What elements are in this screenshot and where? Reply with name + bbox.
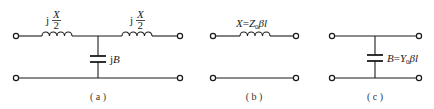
- terminal: [210, 75, 215, 80]
- terminal: [416, 75, 421, 80]
- terminal: [210, 33, 215, 38]
- caption-b: ( b ): [246, 91, 263, 103]
- label-b-equals: B=Y0βl: [387, 52, 418, 66]
- caption-a: ( a ): [90, 91, 106, 103]
- label-jb: jB: [109, 53, 120, 65]
- terminal: [177, 33, 182, 38]
- svg-text:2: 2: [54, 19, 60, 31]
- terminal: [329, 75, 334, 80]
- label-jx-half-right: j X 2: [129, 8, 145, 31]
- caption-c: ( c ): [367, 91, 383, 103]
- terminal: [13, 75, 18, 80]
- svg-text:2: 2: [138, 19, 144, 31]
- terminal: [416, 33, 421, 38]
- panel-b-series-inductor: X=Z0βl ( b ): [210, 17, 298, 103]
- svg-text:j: j: [129, 14, 133, 26]
- circuit-figure: j X 2 j X 2 jB ( a ) X=Z0βl ( b ): [0, 0, 434, 109]
- panel-c-shunt-capacitor: B=Y0βl ( c ): [329, 33, 421, 103]
- terminal: [13, 33, 18, 38]
- terminal: [293, 33, 298, 38]
- terminal: [177, 75, 182, 80]
- inductor-left: [42, 32, 72, 36]
- svg-text:j: j: [45, 14, 49, 26]
- label-x-equals: X=Z0βl: [235, 17, 267, 31]
- label-jx-half-left: j X 2: [45, 8, 61, 31]
- inductor-right: [122, 32, 152, 36]
- terminal: [329, 33, 334, 38]
- panel-a-t-network: j X 2 j X 2 jB ( a ): [13, 8, 182, 103]
- terminal: [293, 75, 298, 80]
- inductor: [240, 32, 270, 36]
